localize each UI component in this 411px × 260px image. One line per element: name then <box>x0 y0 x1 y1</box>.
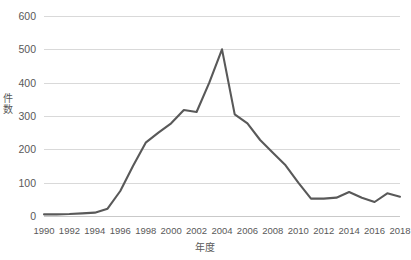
x-tick-label: 1992 <box>59 226 80 236</box>
x-tick-label: 2002 <box>186 226 207 236</box>
x-tick-label: 2014 <box>339 226 360 236</box>
x-tick-label: 1994 <box>84 226 105 236</box>
y-tick-label: 300 <box>0 111 36 122</box>
x-tick-label: 2016 <box>364 226 385 236</box>
x-axis-line <box>44 216 400 217</box>
x-axis-title: 年度 <box>0 243 410 253</box>
x-tick-label: 1998 <box>135 226 156 236</box>
x-tick-label: 2008 <box>262 226 283 236</box>
x-tick-label: 1996 <box>110 226 131 236</box>
x-tick-label: 2006 <box>237 226 258 236</box>
series-polyline <box>44 49 400 214</box>
y-axis-title-char: 件 <box>2 94 14 105</box>
y-tick-label: 100 <box>0 177 36 188</box>
y-tick-label: 0 <box>0 211 36 222</box>
x-tick-label: 2018 <box>389 226 410 236</box>
x-tick-label: 1990 <box>33 226 54 236</box>
y-tick-label: 200 <box>0 144 36 155</box>
series-line <box>44 16 400 216</box>
y-tick-label: 500 <box>0 44 36 55</box>
plot-area <box>44 16 400 216</box>
y-tick-label: 400 <box>0 77 36 88</box>
x-tick-label: 2004 <box>211 226 232 236</box>
x-tick-label: 2000 <box>161 226 182 236</box>
y-tick-label: 600 <box>0 11 36 22</box>
x-tick-label: 2010 <box>288 226 309 236</box>
x-tick-label: 2012 <box>313 226 334 236</box>
